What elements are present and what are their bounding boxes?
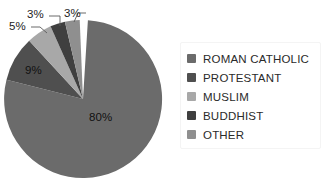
legend-item-label: ROMAN CATHOLIC	[203, 53, 309, 65]
chart-legend: ROMAN CATHOLIC PROTESTANT MUSLIM BUDDHIS…	[180, 42, 321, 149]
legend-swatch-icon	[187, 130, 196, 139]
legend-item-label: PROTESTANT	[203, 72, 281, 84]
slice-data-label-roman-catholic: 80%	[89, 111, 112, 123]
legend-swatch-icon	[187, 54, 196, 63]
pie-chart-figure: 80% 9% 5% 3% 3% ROMAN CATHOLIC PROTESTAN…	[0, 0, 325, 181]
legend-item-protestant[interactable]: PROTESTANT	[187, 68, 320, 87]
legend-item-roman-catholic[interactable]: ROMAN CATHOLIC	[187, 49, 320, 68]
legend-item-label: MUSLIM	[203, 91, 249, 103]
legend-swatch-icon	[187, 73, 196, 82]
legend-item-label: BUDDHIST	[203, 110, 263, 122]
slice-data-label-protestant: 9%	[25, 64, 42, 76]
pie-plot-area: 80% 9% 5% 3% 3%	[0, 0, 180, 181]
legend-swatch-icon	[187, 92, 196, 101]
slice-data-label-buddhist: 3%	[27, 8, 44, 20]
pie-svg	[0, 0, 180, 181]
legend-item-muslim[interactable]: MUSLIM	[187, 87, 320, 106]
legend-item-label: OTHER	[203, 129, 244, 141]
legend-swatch-icon	[187, 111, 196, 120]
legend-item-buddhist[interactable]: BUDDHIST	[187, 106, 320, 125]
legend-item-other[interactable]: OTHER	[187, 125, 320, 144]
slice-data-label-other: 3%	[64, 7, 81, 19]
slice-data-label-muslim: 5%	[9, 20, 26, 32]
